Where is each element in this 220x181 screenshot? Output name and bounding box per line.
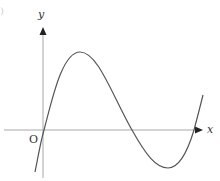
corner-mark: ) [0,6,4,16]
x-axis-label: x [207,124,213,135]
graph-canvas [0,0,220,181]
origin-label: O [29,134,38,145]
x-axis-arrow-icon [195,127,203,134]
y-axis-arrow-icon [40,27,47,35]
y-axis-label: y [38,9,44,20]
cubic-curve [35,52,203,172]
cubic-graph-figure: ) y x O [0,0,220,181]
